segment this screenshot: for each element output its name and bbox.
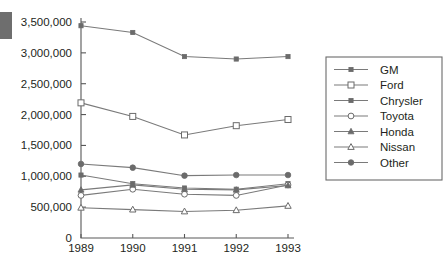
marker-open-square <box>182 132 188 138</box>
axis-lines <box>81 18 294 238</box>
marker-filled-square <box>182 54 186 58</box>
x-tick-label: 1991 <box>172 242 198 254</box>
legend-label: Ford <box>380 79 404 91</box>
line-chart: 0500,0001,000,0001,500,0002,000,0002,500… <box>0 0 447 268</box>
marker-open-circle <box>182 191 188 197</box>
chart-figure: 0500,0001,000,0001,500,0002,000,0002,500… <box>0 0 447 268</box>
series-other <box>78 161 291 178</box>
y-axis: 0500,0001,000,0001,500,0002,000,0002,500… <box>21 16 86 244</box>
series-gm <box>79 24 290 62</box>
y-tick-label: 1,500,000 <box>21 139 72 151</box>
y-tick-label: 2,000,000 <box>21 109 72 121</box>
chart-axes <box>81 18 294 238</box>
series-ford <box>78 100 291 138</box>
x-tick-label: 1989 <box>68 242 94 254</box>
series-nissan <box>78 203 291 214</box>
marker-filled-square <box>286 54 290 58</box>
x-tick-label: 1992 <box>223 242 249 254</box>
marker-open-circle <box>348 113 354 119</box>
legend-label: Toyota <box>380 110 414 122</box>
legend-label: Nissan <box>380 141 415 153</box>
x-tick-label: 1990 <box>120 242 146 254</box>
marker-open-square <box>78 100 84 106</box>
legend-label: Other <box>380 157 409 169</box>
marker-filled-circle <box>182 173 188 179</box>
y-tick-label: 3,500,000 <box>21 16 72 28</box>
plot-area <box>78 24 291 214</box>
marker-filled-square <box>349 98 353 102</box>
marker-filled-circle <box>78 161 84 167</box>
marker-filled-square <box>234 57 238 61</box>
marker-filled-circle <box>285 172 291 178</box>
marker-filled-circle <box>348 160 354 166</box>
marker-filled-square <box>79 173 83 177</box>
marker-filled-square <box>349 67 353 71</box>
series-line-ford <box>81 103 288 135</box>
y-tick-label: 2,500,000 <box>21 78 72 90</box>
marker-open-square <box>130 113 136 119</box>
marker-filled-square <box>79 24 83 28</box>
legend-label: GM <box>380 64 399 76</box>
legend-label: Chrysler <box>380 95 423 107</box>
y-tick-label: 3,000,000 <box>21 47 72 59</box>
marker-open-square <box>233 123 239 129</box>
chart-legend: GMFordChryslerToyotaHondaNissanOther <box>326 57 442 180</box>
marker-open-triangle <box>285 203 291 209</box>
marker-filled-square <box>131 30 135 34</box>
series-line-gm <box>81 26 288 59</box>
y-tick-label: 500,000 <box>30 201 72 213</box>
marker-open-circle <box>78 193 84 199</box>
x-axis: 19891990199119921993 <box>68 234 301 254</box>
decorative-corner-block <box>0 12 12 39</box>
y-tick-label: 1,000,000 <box>21 170 72 182</box>
marker-open-square <box>285 117 291 123</box>
legend-label: Honda <box>380 126 414 138</box>
marker-filled-circle <box>130 165 136 171</box>
marker-filled-circle <box>233 172 239 178</box>
marker-open-circle <box>233 193 239 199</box>
marker-open-square <box>348 82 354 88</box>
x-tick-label: 1993 <box>275 242 301 254</box>
